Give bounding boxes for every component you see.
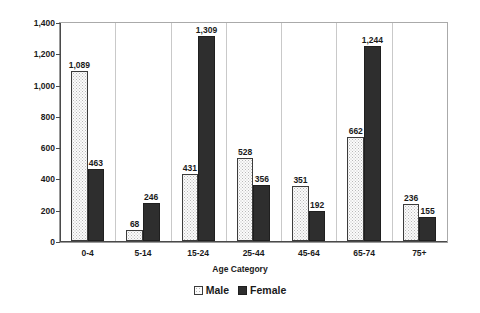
bar-male[interactable]: 431 — [182, 174, 199, 241]
bar-group: 351192 — [281, 23, 336, 241]
bar-value-label: 463 — [89, 158, 103, 168]
bar-value-label: 1,244 — [362, 35, 383, 45]
female-swatch-icon — [238, 286, 247, 295]
bar-value-label: 68 — [130, 219, 139, 229]
y-tick-label: 1,400 — [34, 18, 55, 28]
y-tick-label: 0 — [50, 237, 55, 247]
bar-value-label: 528 — [238, 147, 252, 157]
legend-item-female: Female — [238, 284, 286, 296]
bar-group: 236155 — [392, 23, 447, 241]
bar-male[interactable]: 236 — [403, 204, 420, 241]
bar-male[interactable]: 68 — [126, 230, 143, 241]
bar-value-label: 431 — [183, 163, 197, 173]
y-tick-label: 1,000 — [34, 81, 55, 91]
y-tick-mark — [56, 242, 60, 243]
plot-area: 02004006008001,0001,2001,4001,0894636824… — [59, 22, 448, 243]
bar-group: 1,089463 — [60, 23, 115, 241]
x-tick-label: 15-24 — [187, 248, 209, 258]
bar-chart-figure: Rate (per 100,000) 02004006008001,0001,2… — [0, 0, 480, 313]
bar-value-label: 351 — [293, 175, 307, 185]
male-swatch-icon — [194, 286, 203, 295]
legend-item-male: Male — [194, 284, 229, 296]
bar-value-label: 662 — [349, 126, 363, 136]
bar-female[interactable]: 246 — [143, 203, 160, 241]
bar-value-label: 356 — [255, 174, 269, 184]
bar-group: 528356 — [226, 23, 281, 241]
bar-female[interactable]: 1,244 — [364, 46, 381, 241]
y-tick-label: 600 — [41, 143, 55, 153]
legend-label-male: Male — [206, 284, 229, 296]
bar-male[interactable]: 662 — [347, 137, 364, 241]
y-tick-label: 1,200 — [34, 49, 55, 59]
bar-male[interactable]: 1,089 — [71, 71, 88, 241]
x-axis-title: Age Category — [0, 264, 480, 274]
bar-value-label: 1,089 — [69, 60, 90, 70]
bar-group: 4311,309 — [171, 23, 226, 241]
bar-value-label: 1,309 — [196, 25, 217, 35]
bar-female[interactable]: 356 — [253, 185, 270, 241]
y-tick-label: 800 — [41, 112, 55, 122]
x-tick-label: 0-4 — [81, 248, 93, 258]
x-tick-label: 65-74 — [353, 248, 375, 258]
bar-male[interactable]: 351 — [292, 186, 309, 241]
x-tick-label: 25-44 — [243, 248, 265, 258]
x-tick-label: 45-64 — [298, 248, 320, 258]
bar-female[interactable]: 1,309 — [198, 36, 215, 241]
bar-female[interactable]: 463 — [88, 169, 105, 241]
bar-value-label: 155 — [421, 206, 435, 216]
x-tick-label: 5-14 — [134, 248, 151, 258]
bar-female[interactable]: 155 — [419, 217, 436, 241]
bar-group: 6621,244 — [336, 23, 391, 241]
bar-value-label: 192 — [310, 200, 324, 210]
bar-male[interactable]: 528 — [237, 158, 254, 241]
y-tick-label: 400 — [41, 174, 55, 184]
x-tick-label: 75+ — [412, 248, 426, 258]
bar-value-label: 236 — [404, 193, 418, 203]
chart-legend: Male Female — [0, 284, 480, 296]
bar-group: 68246 — [115, 23, 170, 241]
y-tick-label: 200 — [41, 206, 55, 216]
bar-value-label: 246 — [144, 192, 158, 202]
bar-female[interactable]: 192 — [309, 211, 326, 241]
legend-label-female: Female — [250, 284, 286, 296]
